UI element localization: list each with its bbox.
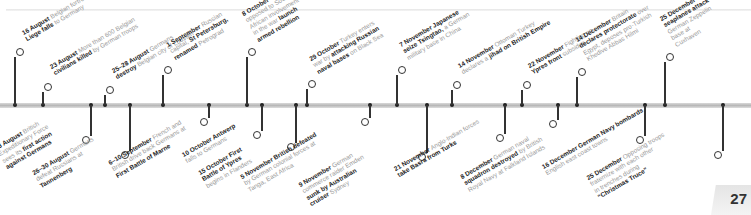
page-number: 27	[730, 190, 747, 207]
connector-line	[129, 105, 131, 151]
connector-line	[521, 90, 523, 105]
top-event-label: 8 October Boers opposed to South African…	[240, 0, 307, 43]
connector-line	[246, 57, 248, 105]
connector-line	[557, 105, 559, 120]
top-event-label: 7 November Japanese seize Tsingtao, a Ge…	[398, 4, 475, 61]
event-ring	[361, 118, 369, 126]
event-ring	[248, 48, 256, 56]
connector-line	[42, 92, 44, 105]
top-event-label: 1 September Russian capital, St Petersbu…	[165, 9, 233, 61]
event-ring	[714, 151, 722, 159]
connector-line	[576, 77, 578, 105]
connector-line	[396, 75, 398, 105]
connector-line	[306, 89, 308, 105]
event-ring	[308, 80, 316, 88]
connector-line	[261, 105, 263, 131]
connector-line	[14, 57, 16, 105]
event-ring	[200, 118, 208, 126]
connector-line	[162, 75, 164, 105]
event-ring	[16, 48, 24, 56]
event-ring	[253, 131, 261, 139]
event-ring	[106, 86, 114, 94]
top-event-label: 25 December Royal Navy seaplanes attack …	[658, 0, 742, 48]
connector-line	[90, 105, 92, 136]
event-ring	[666, 53, 674, 61]
bottom-event-label: 6–10 September French and British drive …	[107, 118, 191, 179]
event-ring	[453, 81, 461, 89]
event-ring	[496, 134, 504, 142]
event-ring	[164, 66, 172, 74]
top-event-label: 16 August Belgian fortress of Liege fall…	[21, 0, 101, 43]
connector-line	[451, 90, 453, 105]
connector-line	[104, 95, 106, 105]
connector-line	[664, 62, 666, 105]
event-ring	[398, 66, 406, 74]
event-ring	[549, 120, 557, 128]
connector-line	[369, 105, 371, 118]
connector-line	[722, 105, 724, 151]
top-event-label: 29 October Turkey enters war by attackin…	[308, 18, 385, 75]
event-ring	[578, 68, 586, 76]
event-ring	[523, 81, 531, 89]
connector-line	[295, 105, 297, 143]
connector-line	[504, 105, 506, 134]
event-ring	[44, 83, 52, 91]
connector-line	[208, 105, 210, 118]
